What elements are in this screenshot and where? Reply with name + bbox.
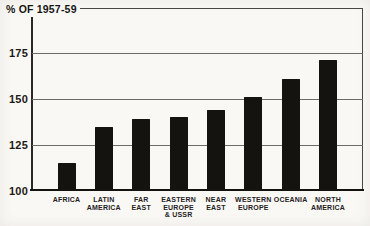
chart-title: % OF 1957-59	[6, 3, 77, 15]
x-category-label: NORTHAMERICA	[301, 196, 355, 211]
bar-far-east	[132, 119, 150, 191]
bar-africa	[58, 163, 76, 191]
bar-oceania	[282, 79, 300, 191]
scanned-page-background	[0, 0, 370, 226]
bar-near-east	[207, 110, 225, 191]
y-tick-label-175: 175	[1, 48, 28, 59]
x-axis-baseline	[30, 189, 364, 191]
bar-north-america	[319, 60, 337, 191]
gridline-125	[32, 145, 363, 146]
bar-eastern-europe-ussr	[170, 117, 188, 191]
y-tick-label-150: 150	[1, 94, 28, 105]
bar-latin-america	[95, 127, 113, 191]
gridline-175	[32, 53, 363, 54]
plot-top-border	[80, 8, 363, 9]
y-axis-line	[31, 17, 33, 191]
bar-western-europe	[244, 97, 262, 191]
gridline-150	[32, 99, 363, 100]
y-tick-label-125: 125	[1, 140, 28, 151]
y-tick-label-100: 100	[1, 186, 28, 197]
